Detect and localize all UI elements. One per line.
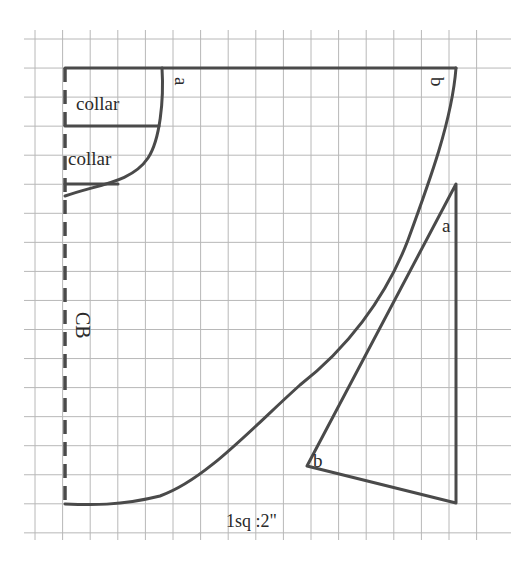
pattern-diagram: collar collar a b a b CB 1sq :2" xyxy=(0,0,530,572)
point-a-right-label: a xyxy=(442,215,451,236)
collar-label-lower: collar xyxy=(68,148,112,169)
outer-hem-curve xyxy=(65,68,456,505)
center-back-label: CB xyxy=(72,312,94,339)
scale-label: 1sq :2" xyxy=(226,511,277,531)
dart-triangle xyxy=(307,184,456,503)
neckline-curve xyxy=(65,68,162,196)
point-a-top-label: a xyxy=(171,77,192,86)
collar-label-upper: collar xyxy=(76,93,120,114)
point-b-top-label: b xyxy=(427,77,448,87)
point-b-bottom-label: b xyxy=(313,450,323,471)
